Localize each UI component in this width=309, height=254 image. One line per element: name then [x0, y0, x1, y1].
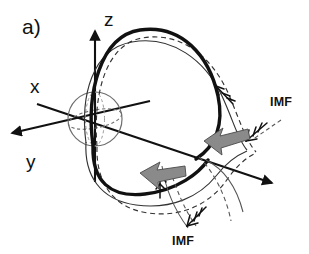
field-line-south-dashed — [97, 147, 256, 214]
imf-label-upper: IMF — [270, 95, 292, 109]
axis-system — [12, 31, 272, 183]
magnetosphere-diagram: a) z x y IMF IMF — [0, 0, 309, 254]
panel-label: a) — [22, 15, 41, 38]
axis-line-y — [12, 101, 150, 133]
imf-label-lower: IMF — [172, 234, 194, 248]
axis-label-z: z — [104, 9, 114, 30]
figure-panel-a: a) z x y IMF IMF — [0, 0, 309, 254]
axis-label-y: y — [26, 151, 36, 172]
flow-arrow-upper — [204, 128, 250, 155]
field-arrow-imf-lower — [187, 207, 206, 226]
field-line-north-thick — [91, 29, 220, 159]
axis-label-x: x — [30, 76, 40, 97]
